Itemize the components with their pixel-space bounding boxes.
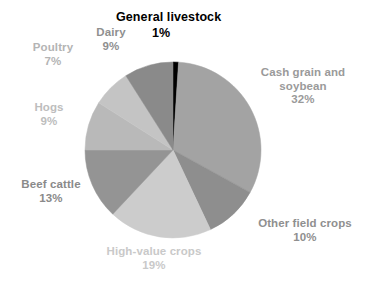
slice-label-cash-grain-and-soybean-name-line1: Cash grain and [247, 66, 359, 80]
slice-label-high-value-crops-value: 19% [98, 259, 210, 273]
slice-label-hogs-name: Hogs [26, 101, 72, 115]
slice-label-beef-cattle-name: Beef cattle [8, 178, 94, 192]
slice-label-other-field-crops-value: 10% [245, 231, 365, 245]
slice-label-high-value-crops: High-value crops 19% [98, 245, 210, 272]
pie-slice-group [85, 62, 261, 238]
pie-chart: General livestock 1% Dairy 9% Poultry 7%… [0, 0, 368, 290]
slice-label-dairy-name: Dairy [87, 26, 135, 40]
slice-label-other-field-crops-name: Other field crops [245, 217, 365, 231]
slice-label-high-value-crops-name: High-value crops [98, 245, 210, 259]
slice-label-dairy: Dairy 9% [87, 26, 135, 53]
slice-label-general-livestock: General livestock 1% [116, 10, 221, 24]
slice-label-general-livestock-name: General livestock [116, 10, 221, 24]
slice-label-beef-cattle-value: 13% [8, 192, 94, 206]
slice-label-beef-cattle: Beef cattle 13% [8, 178, 94, 205]
slice-label-cash-grain-and-soybean-name-line2: soybean [247, 80, 359, 94]
slice-label-cash-grain-and-soybean: Cash grain and soybean 32% [247, 66, 359, 107]
slice-label-poultry: Poultry 7% [25, 41, 81, 68]
slice-label-general-livestock-value: 1% [152, 26, 170, 40]
slice-label-other-field-crops: Other field crops 10% [245, 217, 365, 244]
slice-label-poultry-value: 7% [25, 55, 81, 69]
slice-label-poultry-name: Poultry [25, 41, 81, 55]
slice-label-cash-grain-and-soybean-value: 32% [247, 93, 359, 107]
slice-label-dairy-value: 9% [87, 40, 135, 54]
slice-label-hogs: Hogs 9% [26, 101, 72, 128]
slice-label-hogs-value: 9% [26, 115, 72, 129]
